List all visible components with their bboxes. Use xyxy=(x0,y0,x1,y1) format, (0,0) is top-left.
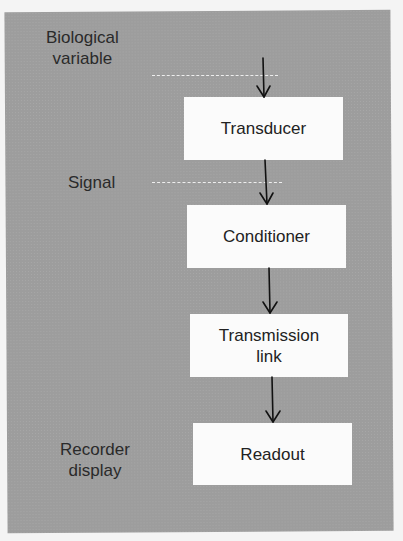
arrow-down-icon xyxy=(266,377,280,422)
arrow-down-icon xyxy=(257,58,270,97)
flow-arrows xyxy=(0,0,403,541)
arrow-down-icon xyxy=(260,160,273,204)
arrow-down-icon xyxy=(263,268,277,313)
